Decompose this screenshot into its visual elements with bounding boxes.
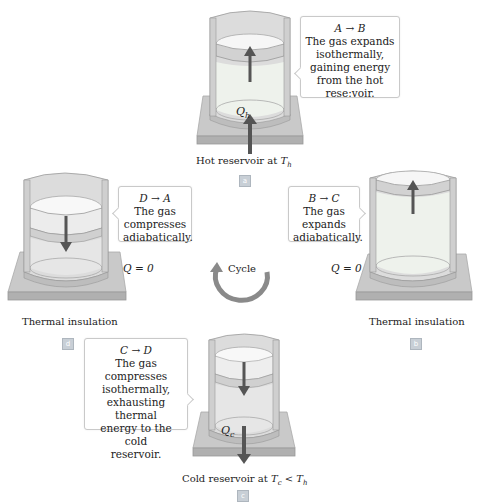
cycle-label: Cycle <box>228 263 256 274</box>
panel-badge-b: b <box>410 338 422 350</box>
cylinder-insulated-compression-illustration <box>8 168 126 308</box>
q-zero-label-b: Q = 0 <box>331 262 362 274</box>
heat-label-qc: Qc <box>221 424 235 439</box>
caption-sub: h <box>287 161 292 169</box>
callout-line: The gas <box>89 357 183 370</box>
callout-line: energy to the cold <box>89 422 183 448</box>
cylinder-insulated-expansion-illustration <box>356 166 476 308</box>
cylinder-hot-reservoir-illustration <box>195 4 305 154</box>
callout-line: adiabatically. <box>293 231 355 244</box>
caption-less-than: < <box>282 473 297 484</box>
q-zero-label-d: Q = 0 <box>123 262 154 274</box>
callout-line: gaining energy <box>305 61 395 74</box>
heat-symbol: Q <box>236 105 245 118</box>
panel-badge-a: a <box>239 175 251 187</box>
caption-thermal-insulation-d: Thermal insulation <box>22 316 118 327</box>
callout-line: isothermally, <box>305 48 395 61</box>
callout-line: The gas expands <box>305 35 395 48</box>
callout-b-to-c: B → C The gas expands adiabatically. <box>288 186 360 242</box>
caption-var2: T <box>296 473 303 484</box>
panel-badge-d: d <box>62 338 74 350</box>
cylinder-cold-reservoir-illustration <box>183 330 308 470</box>
callout-line: The gas <box>293 205 355 218</box>
callout-a-to-b: A → B The gas expands isothermally, gain… <box>300 16 400 98</box>
callout-d-to-a: D → A The gas compresses adiabatically. <box>118 186 192 242</box>
callout-title: B → C <box>293 192 355 205</box>
callout-line: from the hot <box>305 74 395 87</box>
callout-line: isothermally, <box>89 383 183 396</box>
callout-line: compresses <box>123 218 187 231</box>
callout-line: reservoir. <box>89 448 183 461</box>
callout-line: expands <box>293 218 355 231</box>
heat-subscript: h <box>245 111 250 120</box>
caption-hot-reservoir: Hot reservoir at Th <box>196 155 292 169</box>
callout-line: The gas <box>123 205 187 218</box>
caption-text: Hot reservoir at <box>196 155 280 166</box>
callout-title: D → A <box>123 192 187 205</box>
caption-sub2: h <box>303 479 308 487</box>
heat-label-qh: Qh <box>236 105 250 120</box>
caption-var: T <box>271 473 278 484</box>
heat-subscript: c <box>230 430 234 439</box>
callout-c-to-d: C → D The gas compresses isothermally, e… <box>84 338 188 430</box>
callout-title: C → D <box>89 344 183 357</box>
caption-cold-reservoir: Cold reservoir at Tc < Th <box>182 473 308 487</box>
callout-line: compresses <box>89 370 183 383</box>
caption-text: Cold reservoir at <box>182 473 271 484</box>
heat-symbol: Q <box>221 424 230 437</box>
callout-line: adiabatically. <box>123 231 187 244</box>
callout-line: exhausting thermal <box>89 396 183 422</box>
caption-thermal-insulation-b: Thermal insulation <box>369 316 465 327</box>
callout-line: rese:voir. <box>305 87 395 100</box>
callout-title: A → B <box>305 22 395 35</box>
panel-badge-c: c <box>237 490 249 502</box>
